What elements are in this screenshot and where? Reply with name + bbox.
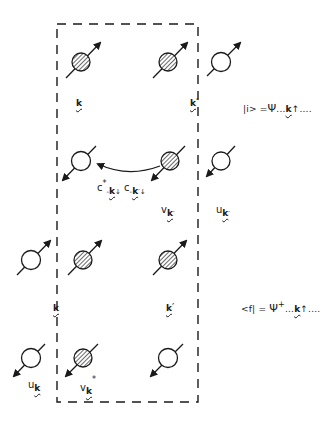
star-sup: * (92, 375, 96, 384)
dashed-box (57, 24, 198, 402)
ellipsis: .... (299, 104, 311, 114)
u-kprime-label: uk′ (216, 205, 230, 218)
spin-down-empty-icon (207, 146, 235, 176)
initial-state-formula: |i> =Ψ...k↑.... (243, 103, 312, 114)
star-sup: * (103, 179, 107, 188)
u-k-label: uk (28, 380, 40, 393)
spin-down-empty-icon (14, 344, 45, 376)
spin-up-filled-icon (153, 241, 186, 275)
plus-sup: + (278, 300, 285, 309)
spin-up-filled-icon (153, 43, 187, 78)
label-kprime-row1: k′ (190, 98, 198, 108)
spin-down-symbol: ↓ (140, 188, 146, 196)
prime-mark: ′ (173, 210, 175, 218)
ellipsis: ... (276, 104, 285, 114)
psi-symbol: Ψ (269, 302, 278, 315)
pair-transfer-arrow (98, 164, 160, 172)
spin-up-filled-icon (66, 43, 100, 78)
spin-up-empty-icon (17, 241, 50, 275)
spin-down-filled-icon (66, 344, 98, 376)
final-state-formula: <f| = Ψ+...k↑.... (241, 301, 320, 314)
prime-mark: ′ (196, 97, 198, 108)
spin-up-symbol: ↑ (300, 304, 308, 314)
prime-mark: ′ (228, 210, 230, 218)
spin-down-symbol: ↓ (115, 188, 121, 196)
ket-i: |i> = (243, 104, 267, 114)
spin-up-empty-icon (207, 43, 240, 76)
spin-row-1 (66, 43, 240, 78)
v-k-star-label: vk* (80, 380, 96, 396)
operator-pair-label: c*-k↓ c-k′↓ (97, 180, 146, 196)
k-vector: k (86, 386, 92, 396)
spin-down-empty-icon (151, 344, 183, 376)
spin-row-4 (14, 344, 183, 376)
label-kprime-row3: k′ (166, 303, 174, 313)
spin-down-empty-icon (63, 146, 96, 180)
k-vector: k (34, 383, 40, 393)
spin-up-filled-icon (68, 241, 101, 275)
label-k-row1: k (76, 98, 82, 108)
ellipsis: ... (285, 304, 294, 314)
bra-f: <f| = (241, 304, 266, 314)
prime-mark: ′ (172, 302, 174, 313)
psi-symbol: Ψ (267, 102, 276, 115)
spin-row-2 (63, 146, 235, 180)
spin-down-filled-icon (152, 146, 185, 180)
v-kprime-label: vk′ (161, 205, 175, 218)
spin-row-3 (17, 241, 186, 275)
k-vector: k (53, 303, 59, 313)
label-k-row3: k (53, 303, 59, 313)
ellipsis: .... (308, 304, 320, 314)
k-vector: k (76, 98, 82, 108)
